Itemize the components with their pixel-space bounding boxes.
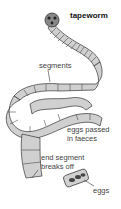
eggs-passed-label-2: in faeces [67,135,97,143]
tapeworm-diagram: tapeworm segments eggs passed in faeces … [0,0,121,209]
end-segment-label-1: end segment [41,154,84,162]
egg-segment [63,168,90,187]
tapeworm-head [45,13,59,27]
tapeworm-illustration [0,0,121,209]
title-label: tapeworm [70,12,108,20]
end-segment-label-2: breaks off [41,163,74,171]
segments-label: segments [39,62,72,70]
eggs-label: eggs [93,187,109,195]
eggs-passed-label-1: eggs passed [67,126,110,134]
